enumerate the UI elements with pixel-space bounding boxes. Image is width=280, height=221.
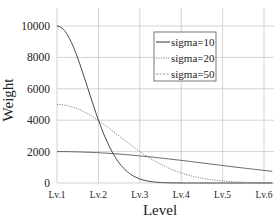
x-tick-label: Lv.1 (48, 190, 65, 200)
y-tick-label: 10000 (21, 20, 50, 32)
x-tick-label: Lv.4 (173, 190, 190, 200)
y-tick-label: 2000 (27, 146, 50, 158)
x-tick-label: Lv.5 (214, 190, 231, 200)
y-tick-label: 8000 (27, 51, 50, 63)
weight-vs-level-chart: 0200040006000800010000 Lv.1Lv.2Lv.3Lv.4L… (0, 0, 280, 221)
y-tick-label: 0 (44, 177, 50, 189)
series-line-sigma-20 (57, 105, 272, 183)
x-tick-labels: Lv.1Lv.2Lv.3Lv.4Lv.5Lv.6 (48, 190, 272, 200)
y-tick-label: 4000 (27, 114, 50, 126)
legend-label-sigma-10: sigma=10 (171, 36, 215, 48)
chart-canvas: 0200040006000800010000 Lv.1Lv.2Lv.3Lv.4L… (0, 0, 280, 221)
x-tick-label: Lv.2 (90, 190, 107, 200)
x-axis-label: Level (143, 202, 177, 218)
legend: sigma=10 sigma=20 sigma=50 (154, 32, 216, 81)
legend-label-sigma-20: sigma=20 (171, 52, 215, 64)
y-tick-label: 6000 (27, 83, 50, 95)
x-tick-label: Lv.6 (255, 190, 272, 200)
x-tick-label: Lv.3 (131, 190, 148, 200)
legend-label-sigma-50: sigma=50 (171, 68, 215, 80)
y-axis-label: Weight (0, 78, 16, 122)
series-line-sigma-50 (57, 152, 272, 172)
y-tick-labels: 0200040006000800010000 (21, 20, 50, 189)
